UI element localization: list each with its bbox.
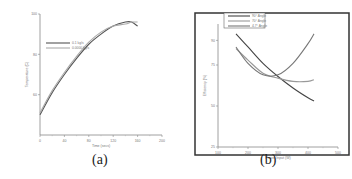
x-tick-label: 40: [62, 139, 66, 143]
x-axis-label: Time (secs): [92, 144, 110, 148]
series-line: [236, 34, 314, 76]
y-tick-label: 60: [33, 93, 37, 97]
chart-a: 040801201602006080100Time (secs)Temperat…: [0, 0, 176, 179]
x-tick-label: 0: [39, 139, 41, 143]
legend-label: 70° Angle: [252, 19, 266, 23]
legend-label: 4.7° Angle: [252, 24, 267, 28]
caption-a: (a): [92, 152, 108, 168]
x-tick-label: 120: [110, 139, 116, 143]
series-line: [236, 49, 314, 82]
y-axis-label: Temperature (C): [25, 62, 29, 87]
x-tick-label: 400: [305, 151, 311, 155]
x-tick-label: 80: [87, 139, 91, 143]
y-tick-label: 50: [211, 104, 215, 108]
series-line: [236, 34, 314, 101]
y-tick-label: 25: [211, 145, 215, 149]
chart-b-plot: 10020030040050025507590Power Input (W)Ef…: [176, 0, 352, 160]
legend-label: 0.0000 kg/s: [72, 46, 89, 50]
legend-label: 90° Angle: [252, 14, 266, 18]
y-tick-label: 80: [33, 53, 37, 57]
y-tick-label: 100: [31, 12, 37, 16]
chart-a-plot: 040801201602006080100Time (secs)Temperat…: [0, 0, 176, 150]
y-tick-label: 75: [211, 63, 215, 67]
y-tick-label: 90: [211, 39, 215, 43]
x-tick-label: 200: [159, 139, 165, 143]
x-tick-label: 500: [335, 151, 341, 155]
series-line: [40, 22, 138, 115]
caption-b: (b): [260, 152, 276, 168]
x-tick-label: 100: [215, 151, 221, 155]
legend-label: 0.1 kg/s: [72, 41, 84, 45]
y-axis-label: Efficiency (%): [203, 75, 207, 96]
series-line: [40, 22, 138, 113]
x-tick-label: 200: [245, 151, 251, 155]
x-tick-label: 160: [135, 139, 141, 143]
